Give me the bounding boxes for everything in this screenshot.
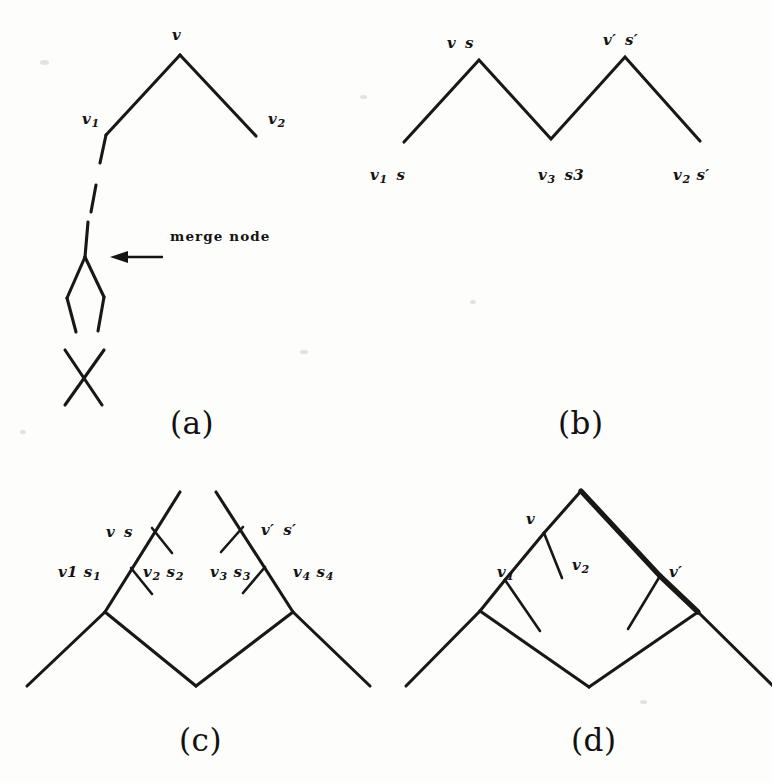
panel-b-label-top-right: v′s′: [603, 33, 638, 48]
panel-a-label-v2: v2: [268, 112, 286, 129]
panel-d-tick-v1: [505, 580, 540, 631]
panel-c-label-v4-s4: v4s4: [293, 565, 334, 582]
panel-a-merge-diamond-left: [67, 257, 85, 298]
panel-a-label-v1: v1: [82, 112, 100, 129]
panel-a-merge-diamond-right: [85, 257, 104, 297]
panel-d-v1-subscript: 1: [506, 570, 514, 583]
panel-c-tick-vprime: [221, 527, 243, 552]
panel-b-prime-v: ′: [612, 31, 616, 49]
panel-c-label-v2-s2: v2s2: [143, 565, 184, 582]
scan-speck: [20, 430, 26, 434]
panel-d-left-outer-tail: [406, 611, 480, 686]
scan-speck: [300, 350, 308, 354]
panel-c-label-v-s: vs: [106, 525, 133, 540]
scan-speck: [40, 60, 49, 65]
panel-a-merge-stem: [85, 222, 88, 257]
panel-b-label-bottom-middle: v3s3: [538, 168, 584, 185]
panel-d-caption: (d): [571, 722, 617, 758]
panel-a-label-v2-subscript: 2: [277, 117, 285, 130]
panel-d-label-vprime: v′: [669, 565, 682, 580]
panel-a-left-branch: [106, 55, 180, 135]
panel-b-caption: (b): [558, 405, 604, 441]
panel-c-left-upper-arm: [105, 492, 180, 612]
panel-c-label-v3-s3: v3s3: [210, 565, 251, 582]
panel-d-tick-v: [544, 533, 562, 578]
panel-c-v4-subscript: 4: [302, 570, 310, 583]
panel-c-caption: (c): [179, 722, 222, 758]
panel-d-v2-subscript: 2: [581, 563, 589, 576]
panel-c-label-vprime-sprime: v′s′: [261, 523, 296, 538]
panel-c-drawing: [27, 492, 370, 686]
panel-c-v2-subscript: 2: [152, 570, 160, 583]
panel-a-left-kink: [100, 135, 106, 163]
panel-a-right-branch: [180, 55, 256, 136]
panel-a-merge-node-annotation: merge node: [170, 228, 271, 244]
panel-c-right-upper-arm: [216, 492, 293, 612]
panel-b-label-bottom-right: v2s′: [673, 168, 709, 185]
panel-d-drawing: [406, 491, 772, 687]
panel-b-br-subscript: 2: [682, 173, 690, 186]
panel-d-top-left-edge: [544, 491, 581, 533]
panel-d-label-v1: v1: [497, 565, 515, 582]
panel-b-bm-subscript: 3: [547, 173, 555, 186]
panel-c-s3-subscript: 3: [242, 570, 250, 583]
panel-d-label-v2: v2: [572, 558, 590, 575]
panel-c-s4-subscript: 4: [325, 570, 333, 583]
panel-c-right-inner-arm: [196, 612, 293, 686]
panel-d-top-right-edge: [581, 491, 660, 576]
scan-speck: [360, 95, 367, 99]
panel-b-drawing: [404, 57, 700, 142]
panel-d-tick-vprime: [628, 576, 660, 629]
panel-b-zigzag: [404, 57, 700, 142]
figure-drawing: [0, 0, 772, 783]
panel-a-merge-diamond-lower-right: [98, 297, 104, 331]
panel-c-right-outer-tail: [293, 612, 370, 686]
panel-d-right-edge-lower: [660, 576, 698, 612]
panel-c-left-inner-arm: [105, 612, 196, 686]
panel-d-label-v: v: [526, 512, 535, 527]
panel-c-s2-subscript: 2: [175, 570, 183, 583]
panel-c-tick-v: [152, 528, 172, 553]
scan-speck: [640, 700, 647, 704]
panel-d-inner-right-arm: [589, 612, 698, 687]
panel-a-merge-diamond-lower-left: [67, 298, 76, 332]
panel-d-right-outer-tail: [698, 612, 772, 686]
figure-container: v v1 v2 merge node (a) vs v′s′ v1s v3s3 …: [0, 0, 772, 783]
panel-b-label-top-left: vs: [447, 36, 474, 51]
panel-a-label-v: v: [172, 28, 181, 43]
scan-speck: [470, 300, 476, 304]
panel-d-left-edge-lower: [480, 580, 505, 611]
panel-a-arrow-head: [110, 251, 128, 263]
panel-c-label-v1-s1: v1s1: [58, 565, 101, 582]
panel-b-bl-subscript: 1: [379, 173, 387, 186]
panel-a-label-v1-subscript: 1: [91, 117, 99, 130]
panel-c-s1-subscript: 1: [93, 570, 101, 583]
panel-c-left-outer-tail: [27, 612, 105, 686]
panel-b-label-bottom-left: v1s: [370, 168, 405, 185]
panel-b-prime-s: ′: [634, 31, 638, 49]
panel-a-caption: (a): [170, 405, 214, 441]
panel-a-dashed-segment: [91, 185, 96, 212]
panel-c-v3-subscript: 3: [219, 570, 227, 583]
panel-b-br-prime: ′: [705, 166, 709, 184]
